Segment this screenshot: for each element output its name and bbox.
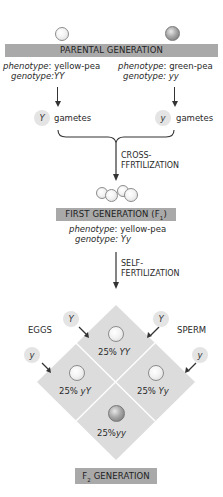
f1-phenotype: phenotype: yellow-pea	[69, 224, 166, 234]
f2-generation-label: GENERATION	[91, 471, 150, 481]
first-generation-label-end: )	[163, 209, 166, 219]
diagram-lines	[0, 0, 223, 497]
cross-line1: CROSS-	[121, 151, 179, 161]
f2-pea-yY	[69, 365, 85, 381]
first-generation-label: FIRST GENERATION (F	[65, 209, 160, 219]
phenotype-value: : yellow-pea	[115, 224, 167, 234]
cell-pct: 25%	[59, 386, 78, 396]
genotype-label: genotype	[75, 234, 115, 244]
self-fertilization-label: SELF- FERTILIZATION	[121, 259, 180, 279]
f2-generation-bar: F2 GENERATION	[75, 468, 157, 484]
first-generation-bar: FIRST GENERATION (F1)	[56, 208, 176, 221]
f2-pea-Yy	[148, 365, 164, 381]
brace-icon	[58, 130, 174, 143]
sperm-gamete-Y: Y	[153, 311, 169, 327]
genotype-value: : Yy	[115, 234, 131, 244]
f2-pea-yy	[108, 405, 125, 422]
cell-Yy-label: 25% Yy	[137, 386, 169, 396]
cell-genotype: yy	[116, 428, 126, 438]
egg-gamete-Y: Y	[63, 311, 79, 327]
cell-pct: 25%	[97, 428, 116, 438]
cell-pct: 25%	[98, 347, 117, 357]
eggs-label: EGGS	[28, 325, 52, 335]
sperm-gamete-y: y	[192, 347, 208, 363]
cell-genotype: YY	[120, 347, 130, 357]
f1-pea	[105, 189, 118, 202]
cell-yy-label: 25%yy	[97, 428, 126, 438]
egg-gamete-y: y	[24, 347, 40, 363]
self-line2: FERTILIZATION	[121, 269, 180, 279]
cross-line2: FFRTILIZATION	[121, 161, 179, 171]
f1-genotype: genotype: Yy	[75, 234, 131, 244]
cell-genotype: yY	[81, 386, 91, 396]
phenotype-label: phenotype	[69, 224, 115, 234]
sperm-label: SPERM	[177, 325, 206, 335]
f2-pea-YY	[108, 326, 124, 342]
cross-fertilization-label: CROSS- FFRTILIZATION	[121, 151, 179, 171]
cell-yY-label: 25% yY	[59, 386, 91, 396]
f1-pea	[124, 188, 138, 202]
cell-YY-label: 25% YY	[98, 347, 130, 357]
cell-genotype: Yy	[159, 386, 169, 396]
cell-pct: 25%	[137, 386, 156, 396]
self-line1: SELF-	[121, 259, 180, 269]
